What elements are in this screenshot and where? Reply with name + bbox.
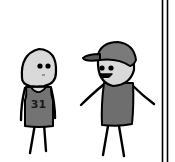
right-character-arm-right <box>132 85 154 104</box>
right-character-shirt <box>102 83 134 126</box>
left-character-leg-left <box>30 124 35 153</box>
left-character-leg-right <box>44 124 46 151</box>
right-character-cap-brim <box>83 54 100 61</box>
comic-panel: 31 <box>0 0 175 162</box>
right-character-leg-right <box>119 126 124 156</box>
jersey-number: 31 <box>31 98 46 111</box>
right-character <box>81 42 154 156</box>
right-character-eye-right <box>108 65 113 70</box>
panel-border-double-line <box>163 0 168 162</box>
comic-scene: 31 <box>0 0 175 162</box>
left-character-eye-left <box>37 63 42 68</box>
right-character-leg-left <box>103 126 108 155</box>
left-character-eye-right <box>45 63 50 68</box>
left-character: 31 <box>21 49 56 153</box>
right-character-eye-left <box>99 65 104 70</box>
right-character-arm-left <box>81 85 103 105</box>
